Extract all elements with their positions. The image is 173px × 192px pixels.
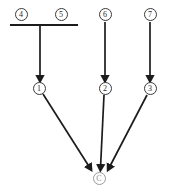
- node-c-label: C: [96, 174, 101, 183]
- node-4[interactable]: 4: [15, 8, 28, 21]
- node-5[interactable]: 5: [55, 8, 68, 21]
- diagram-graph: [0, 0, 173, 192]
- node-3-label: 3: [148, 84, 152, 93]
- node-6-label: 6: [103, 10, 107, 19]
- node-7-label: 7: [148, 10, 152, 19]
- node-1[interactable]: 1: [33, 82, 46, 95]
- edge-node1-to-nodec: [43, 94, 90, 168]
- edge-node3-to-nodec: [109, 95, 147, 168]
- node-4-label: 4: [19, 10, 23, 19]
- node-7[interactable]: 7: [144, 8, 157, 21]
- node-3[interactable]: 3: [144, 82, 157, 95]
- node-6[interactable]: 6: [99, 8, 112, 21]
- node-1-label: 1: [37, 84, 41, 93]
- diagram-canvas: 4 5 6 7 1 2 3 C: [0, 0, 173, 192]
- node-2-label: 2: [103, 84, 107, 93]
- edge-node2-to-nodec: [101, 95, 105, 168]
- node-2[interactable]: 2: [99, 82, 112, 95]
- node-c[interactable]: C: [93, 172, 106, 185]
- node-5-label: 5: [59, 10, 63, 19]
